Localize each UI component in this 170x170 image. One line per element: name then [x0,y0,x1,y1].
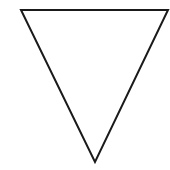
diagram-canvas [0,0,170,170]
inverted-triangle-shape [21,10,168,162]
triangle-figure [0,0,170,170]
